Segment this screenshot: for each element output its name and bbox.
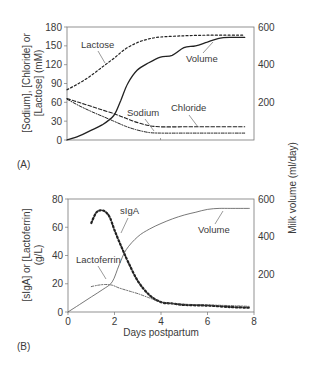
chart-b-y-label-line1: [sIgA] or [Lactoferrin]	[21, 208, 32, 301]
panel-label-a: (A)	[17, 159, 30, 170]
chart-a: 0306090120150180 200400600 [Sodium], [Ch…	[17, 22, 275, 171]
annotation-volume-b: Volume	[198, 224, 230, 235]
chart-a-series	[67, 35, 245, 140]
figure: 0306090120150180 200400600 [Sodium], [Ch…	[0, 0, 311, 368]
annotation-lactoferrin-pointer	[98, 266, 106, 279]
y2-tick-label: 600	[258, 194, 275, 205]
y-tick-label: 80	[52, 194, 64, 205]
y2-tick-label: 200	[258, 97, 275, 108]
y-tick-label: 30	[51, 116, 63, 127]
chart-b-x-axis-ticks: 02468	[65, 312, 257, 327]
y-tick-label: 0	[56, 135, 62, 146]
series-lactoferrin	[91, 285, 249, 307]
x-tick-label: 4	[158, 316, 164, 327]
y-tick-label: 150	[45, 40, 62, 51]
chart-b: 020406080 200400600 02468 [sIgA] or [Lac…	[17, 194, 275, 353]
series-volume	[67, 37, 245, 140]
annotation-chloride: Chloride	[171, 102, 206, 113]
x-axis-label: Days postpartum	[123, 327, 199, 338]
y-tick-label: 60	[52, 222, 64, 233]
annotation-lactose: Lactose	[81, 39, 114, 50]
annotation-chloride-pointer	[189, 115, 198, 127]
chart-b-left-axis-ticks: 020406080	[52, 194, 68, 318]
annotation-sodium: Sodium	[127, 107, 159, 118]
annotation-siga: sIgA	[120, 205, 140, 216]
y2-tick-label: 600	[258, 22, 275, 33]
y-tick-label: 0	[57, 307, 63, 318]
y-tick-label: 60	[51, 97, 63, 108]
right-axis-label: Milk volume (ml/day)	[287, 142, 298, 234]
panel-label-b: (B)	[17, 341, 30, 352]
y-tick-label: 180	[45, 22, 62, 33]
chart-b-right-axis-ticks: 200400600	[258, 194, 275, 280]
chart-a-y-label-line2: [Lactose] (mM)	[33, 50, 44, 117]
x-tick-label: 2	[112, 316, 118, 327]
x-tick-label: 8	[251, 316, 257, 327]
annotation-lactose-pointer	[98, 51, 105, 63]
x-tick-label: 6	[205, 316, 211, 327]
chart-a-right-axis-ticks: 200400600	[258, 22, 275, 108]
y-tick-label: 20	[52, 278, 64, 289]
annotation-lactoferrin: Lactoferrin	[76, 254, 121, 265]
chart-a-left-axis-ticks: 0306090120150180	[45, 22, 67, 146]
y-tick-label: 90	[51, 78, 63, 89]
annotation-volume-b-pointer	[215, 211, 223, 224]
y2-tick-label: 400	[258, 59, 275, 70]
y-tick-label: 120	[45, 59, 62, 70]
chart-b-y-label-line2: (g/L)	[33, 245, 44, 266]
x-tick-label: 0	[65, 316, 71, 327]
y-tick-label: 40	[52, 250, 64, 261]
chart-a-y-label-line1: [Sodium], [Chloride] or	[21, 33, 32, 133]
y2-tick-label: 400	[258, 231, 275, 242]
annotation-volume-a: Volume	[186, 53, 218, 64]
y2-tick-label: 200	[258, 269, 275, 280]
annotation-siga-pointer	[121, 218, 128, 233]
